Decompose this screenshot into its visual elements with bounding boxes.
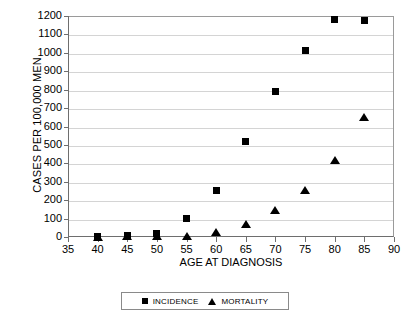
legend-label: INCIDENCE	[153, 297, 199, 306]
y-axis-tick	[64, 219, 69, 220]
y-axis-tick	[64, 16, 69, 17]
x-axis-tick-label: 50	[142, 243, 172, 255]
gridline	[69, 201, 393, 202]
data-point-mortality	[300, 186, 310, 194]
x-axis-tick-label: 85	[349, 243, 379, 255]
y-axis-tick-label: 1100	[16, 28, 62, 39]
data-point-mortality	[152, 232, 162, 240]
x-axis-tick	[275, 237, 276, 242]
data-point-mortality	[241, 220, 251, 228]
y-axis-tick-label: 1200	[16, 10, 62, 21]
gridline	[69, 164, 393, 165]
y-axis-tick	[64, 145, 69, 146]
gridline	[69, 109, 393, 110]
data-point-mortality	[182, 232, 192, 240]
triangle-marker-icon	[208, 298, 216, 305]
x-axis-tick-label: 60	[201, 243, 231, 255]
legend-entry-mortality: MORTALITY	[208, 297, 268, 306]
gridline	[69, 91, 393, 92]
x-axis-tick-label: 65	[231, 243, 261, 255]
x-axis-tick	[394, 237, 395, 242]
gridline	[69, 146, 393, 147]
y-axis-tick-label: 700	[16, 102, 62, 113]
x-axis-tick-label: 75	[290, 243, 320, 255]
y-axis-tick-label: 0	[16, 231, 62, 242]
plot-area	[68, 16, 394, 237]
data-point-mortality	[330, 156, 340, 164]
chart-legend: INCIDENCEMORTALITY	[121, 292, 289, 310]
y-axis-tick-label: 500	[16, 139, 62, 150]
y-axis-tick	[64, 108, 69, 109]
y-axis-tick	[64, 163, 69, 164]
data-point-incidence	[272, 88, 279, 95]
data-point-mortality	[270, 206, 280, 214]
data-point-mortality	[93, 233, 103, 241]
data-point-incidence	[361, 17, 368, 24]
gridline	[69, 72, 393, 73]
y-axis-tick	[64, 90, 69, 91]
y-axis-tick-label: 1000	[16, 47, 62, 58]
y-axis-tick-label: 600	[16, 121, 62, 132]
x-axis-tick	[246, 237, 247, 242]
y-axis-tick	[64, 34, 69, 35]
y-axis-tick	[64, 182, 69, 183]
y-axis-tick-label: 300	[16, 176, 62, 187]
data-point-incidence	[331, 16, 338, 23]
legend-entry-incidence: INCIDENCE	[142, 297, 199, 306]
x-axis-title: AGE AT DIAGNOSIS	[68, 256, 394, 268]
x-axis-tick-label: 80	[320, 243, 350, 255]
gridline	[69, 220, 393, 221]
data-point-incidence	[213, 187, 220, 194]
data-point-incidence	[183, 215, 190, 222]
x-axis-tick-label: 90	[379, 243, 409, 255]
y-axis-tick	[64, 71, 69, 72]
y-axis-tick-label: 200	[16, 194, 62, 205]
x-axis-tick-label: 45	[112, 243, 142, 255]
x-axis-tick	[305, 237, 306, 242]
data-point-incidence	[242, 138, 249, 145]
y-axis-tick-label: 400	[16, 157, 62, 168]
gridline	[69, 35, 393, 36]
x-axis-tick-label: 40	[83, 243, 113, 255]
data-point-incidence	[302, 47, 309, 54]
y-axis-tick	[64, 200, 69, 201]
y-axis-tick-label: 900	[16, 65, 62, 76]
square-marker-icon	[142, 298, 148, 304]
x-axis-tick-label: 70	[260, 243, 290, 255]
data-point-mortality	[211, 228, 221, 236]
scatter-chart: CASES PER 100,000 MEN 010020030040050060…	[0, 0, 409, 324]
data-point-mortality	[122, 232, 132, 240]
gridline	[69, 54, 393, 55]
x-axis-tick	[68, 237, 69, 242]
y-axis-tick-label: 100	[16, 213, 62, 224]
y-axis-tick	[64, 127, 69, 128]
x-axis-tick-label: 35	[53, 243, 83, 255]
y-axis-tick	[64, 53, 69, 54]
x-axis-tick-label: 55	[172, 243, 202, 255]
x-axis-tick	[335, 237, 336, 242]
data-point-mortality	[359, 113, 369, 121]
y-axis-tick-label: 800	[16, 84, 62, 95]
x-axis-tick	[216, 237, 217, 242]
legend-label: MORTALITY	[221, 297, 268, 306]
gridline	[69, 128, 393, 129]
x-axis-tick	[364, 237, 365, 242]
gridline	[69, 183, 393, 184]
